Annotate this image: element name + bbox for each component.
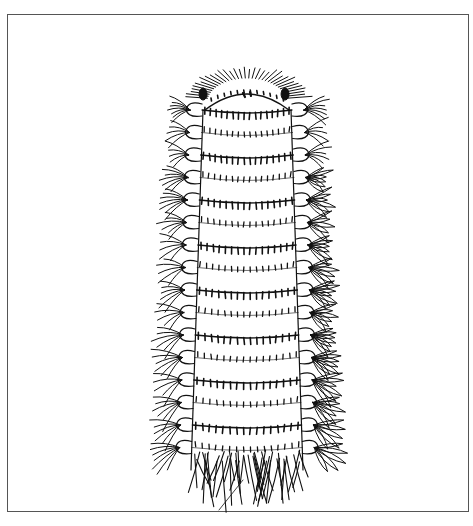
tail-bristle [240,455,243,483]
head-bristle [223,70,232,80]
head-dot [263,92,264,95]
segment-tick [216,426,217,433]
segment-tick [267,111,268,118]
head-bristle [271,76,282,83]
head-dot [270,93,271,96]
segment-tick [249,247,250,254]
segment-tick [274,201,275,208]
segment-tick [212,290,213,297]
segment-tick [249,112,250,119]
segment-tick [243,357,244,362]
segment-tick [222,446,223,451]
segment-tick [249,177,250,182]
head-bristle [201,82,216,87]
segment-tick [290,172,291,177]
segment-tick [262,292,263,299]
segment-tick [250,132,251,137]
segment-tick [203,424,204,431]
head-dot [244,90,245,93]
head-dot [250,90,251,93]
segment-tick [274,220,275,225]
segment-tick [261,176,262,181]
head-bristle [280,83,298,88]
head-dot [211,98,212,101]
head-dot [231,92,232,95]
segment-tick [211,354,212,359]
segment-tick [249,202,250,209]
segment-tick [225,311,226,316]
head-bristle [244,67,245,78]
segment-tick [200,262,201,267]
segment-tick [273,175,274,180]
segment-tick [232,221,233,226]
segment-tick [244,337,245,344]
segment-line [192,448,303,451]
tail-bristle [244,456,249,483]
segment-tick [205,308,206,313]
head-bristle [249,69,250,78]
segment-tick [221,156,222,163]
head-dot [283,98,284,101]
segment-tick [238,157,239,164]
segment-tick [261,131,262,136]
segment-tick [264,446,265,451]
segment-tick [230,401,231,406]
head-bristle [278,82,293,87]
segment-tick [262,311,263,316]
segment-tick [203,152,204,159]
worm-illustration [0,0,473,526]
segment-tick [256,202,257,209]
segment-tick [218,336,219,343]
segment-tick [256,267,257,272]
head-bristle [234,69,239,79]
segment-tick [293,262,294,267]
segment-tick [256,382,257,389]
segment-tick [291,424,292,431]
head-bristle [215,74,226,82]
segment-tick [211,335,212,342]
segment-tick [215,445,216,450]
segment-tick [237,337,238,344]
segment-tick [292,197,293,204]
segment-tick [271,446,272,451]
chaeta-bristle [174,155,189,167]
segment-tick [256,132,257,137]
segment-tick [292,242,293,249]
head-dot [257,91,258,94]
segment-tick [244,177,245,182]
segment-tick [256,247,257,254]
segment-tick [238,247,239,254]
tail-bristle [299,451,308,477]
segment-tick [284,425,285,432]
segment-tick [225,291,226,298]
segment-tick [232,131,233,136]
segment-tick [250,157,251,164]
segment-tick [243,222,244,227]
segment-tick [270,336,271,343]
segment-tick [295,332,296,339]
segment-tick [232,202,233,209]
head-bristle [218,71,229,81]
segment-tick [250,312,251,317]
segment-tick [209,425,210,432]
segment-tick [230,356,231,361]
segment-tick [217,355,218,360]
head-dot [224,93,225,96]
segment-tick [237,427,238,434]
segment-tick [230,337,231,344]
segment-tick [238,177,239,182]
segment-tick [250,337,251,344]
segment-tick [276,381,277,388]
segment-tick [263,266,264,271]
segment-line [194,358,299,361]
eye-left [199,88,207,100]
tail-bristle [203,454,205,503]
segment-tick [262,221,263,226]
segment-tick [208,173,209,178]
segment-tick [209,154,210,161]
segment-tick [237,357,238,362]
segment-tick [222,426,223,433]
segment-tick [289,127,290,132]
segment-tick [275,336,276,343]
segment-tick [267,131,268,136]
